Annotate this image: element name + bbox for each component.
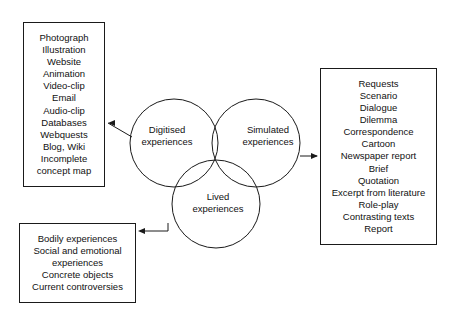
list-item: Video-clip	[43, 80, 85, 92]
list-item: Incomplete	[41, 153, 87, 165]
circle-label-lived: Lived experiences	[182, 191, 254, 214]
list-item: Dialogue	[360, 102, 398, 114]
list-item: Databases	[41, 117, 86, 129]
list-item: Email	[52, 92, 76, 104]
list-item: Bodily experiences	[38, 233, 118, 245]
list-item: Audio-clip	[43, 105, 85, 117]
lived-connector	[138, 223, 168, 234]
list-item: concept map	[37, 165, 91, 177]
list-item: Concrete objects	[42, 269, 113, 281]
list-item: Illustration	[42, 44, 85, 56]
list-item: Social and emotional	[33, 245, 121, 257]
list-item: Current controversies	[32, 281, 123, 293]
list-item: Excerpt from literature	[332, 187, 425, 199]
circle-label-simulated-line1: Simulated	[232, 124, 304, 136]
circle-label-digitised-line2: experiences	[131, 136, 203, 148]
circle-label-lived-line1: Lived	[182, 191, 254, 203]
circle-label-lived-line2: experiences	[182, 203, 254, 215]
list-item: Dilemma	[360, 114, 397, 126]
list-item: Brief	[369, 163, 389, 175]
list-item: Website	[47, 56, 81, 68]
list-item: Photograph	[39, 32, 88, 44]
list-item: Contrasting texts	[343, 211, 414, 223]
circle-label-digitised: Digitised experiences	[131, 124, 203, 147]
lived-experiences-box: Bodily experiencesSocial and emotionalex…	[19, 223, 136, 303]
list-item: Cartoon	[362, 138, 396, 150]
list-item: Newspaper report	[341, 150, 417, 162]
circle-label-simulated: Simulated experiences	[232, 124, 304, 147]
list-item: Blog, Wiki	[43, 141, 85, 153]
circle-label-simulated-line2: experiences	[232, 136, 304, 148]
list-item: Report	[364, 223, 393, 235]
list-item: Webquests	[40, 129, 87, 141]
simulated-connector	[300, 153, 318, 159]
list-item: Correspondence	[343, 126, 413, 138]
list-item: Requests	[358, 78, 398, 90]
list-item: Quotation	[358, 175, 399, 187]
list-item: Animation	[43, 68, 85, 80]
digitised-experiences-box: PhotographIllustrationWebsiteAnimationVi…	[23, 22, 105, 187]
list-item: Scenario	[360, 90, 398, 102]
circle-label-digitised-line1: Digitised	[131, 124, 203, 136]
simulated-experiences-box: RequestsScenarioDialogueDilemmaCorrespon…	[320, 68, 437, 245]
digitised-connector	[108, 120, 132, 137]
diagram-canvas: Digitised experiences Simulated experien…	[0, 0, 451, 333]
list-item: experiences	[52, 257, 103, 269]
list-item: Role-play	[358, 199, 398, 211]
